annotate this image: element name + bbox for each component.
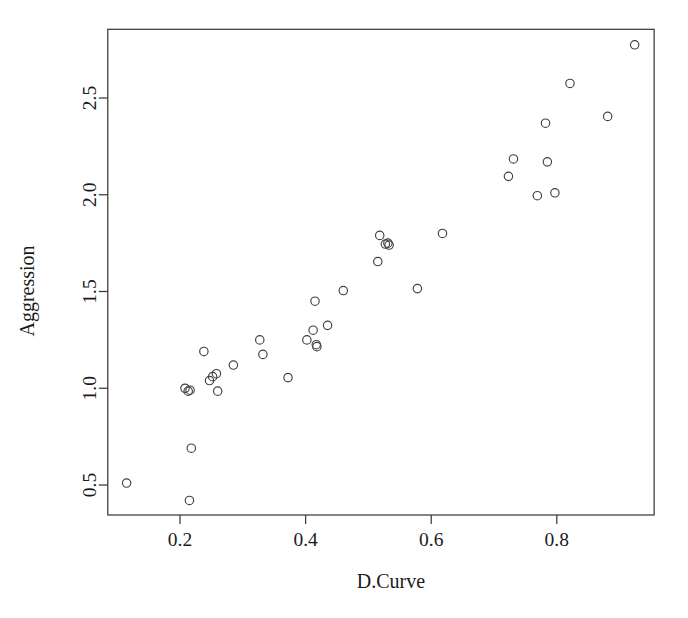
y-tick-label-0.5: 0.5 — [79, 473, 100, 497]
data-point — [259, 350, 267, 358]
data-point — [309, 326, 317, 334]
data-point — [311, 297, 319, 305]
x-tick-label-0.6: 0.6 — [419, 529, 444, 550]
scatter-plot-figure: 0.20.40.60.8 0.51.01.52.02.5 D.Curve Agg… — [0, 0, 688, 618]
data-point — [213, 387, 221, 395]
plot-canvas: 0.20.40.60.8 0.51.01.52.02.5 D.Curve Agg… — [0, 0, 688, 618]
data-point — [256, 336, 264, 344]
y-tick-label-2.0: 2.0 — [79, 183, 100, 207]
data-point — [339, 286, 347, 294]
x-axis: 0.20.40.60.8 — [168, 515, 569, 550]
x-tick-label-0.4: 0.4 — [293, 529, 318, 550]
data-point — [303, 336, 311, 344]
data-point — [229, 361, 237, 369]
x-axis-title: D.Curve — [357, 570, 425, 592]
x-tick-label-0.2: 0.2 — [168, 529, 192, 550]
data-point — [533, 192, 541, 200]
y-tick-label-1.0: 1.0 — [79, 376, 100, 400]
data-point — [122, 479, 130, 487]
data-points-layer — [122, 41, 638, 505]
data-point — [566, 79, 574, 87]
data-point — [551, 189, 559, 197]
data-point — [284, 373, 292, 381]
data-point — [374, 257, 382, 265]
data-point — [187, 444, 195, 452]
x-tick-label-0.8: 0.8 — [545, 529, 569, 550]
data-point — [200, 347, 208, 355]
y-axis-title: Aggression — [16, 245, 39, 336]
data-point — [438, 229, 446, 237]
data-point — [376, 231, 384, 239]
plot-frame — [108, 29, 654, 515]
plot-box — [108, 29, 654, 515]
data-point — [504, 172, 512, 180]
data-point — [413, 284, 421, 292]
data-point — [185, 496, 193, 504]
data-point — [541, 119, 549, 127]
data-point — [509, 155, 517, 163]
y-tick-label-1.5: 1.5 — [79, 279, 100, 303]
data-point — [630, 41, 638, 49]
data-point — [323, 321, 331, 329]
y-tick-label-2.5: 2.5 — [79, 86, 100, 110]
data-point — [543, 158, 551, 166]
data-point — [603, 112, 611, 120]
y-axis: 0.51.01.52.02.5 — [79, 86, 108, 497]
